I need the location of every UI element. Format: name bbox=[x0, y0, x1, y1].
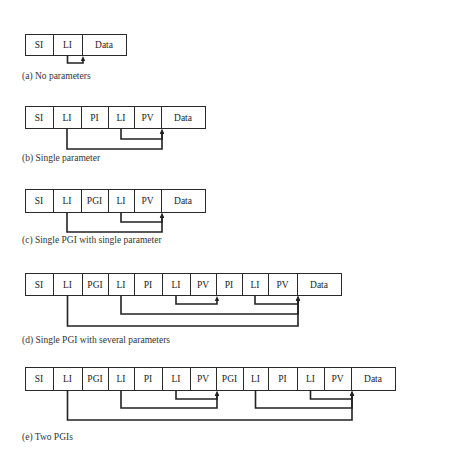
pointer-link bbox=[311, 390, 355, 399]
arrowhead-icon bbox=[160, 213, 164, 218]
panel-a: SILIData(a) No parameters bbox=[22, 35, 127, 83]
field-label: PV bbox=[197, 374, 209, 384]
panel-e: SILIPGILIPILIPVPGILIPILIPVData(e) Two PG… bbox=[22, 368, 396, 444]
field-label: PV bbox=[331, 374, 343, 384]
field-cell-data: Data bbox=[162, 107, 206, 129]
arrowhead-icon bbox=[296, 296, 300, 301]
field-cell-pi: PI bbox=[269, 368, 298, 391]
field-cell-pgi: PGI bbox=[217, 368, 244, 391]
panel-caption: (e) Two PGIs bbox=[22, 432, 73, 443]
pointer-link bbox=[121, 212, 164, 222]
field-cell-pi: PI bbox=[217, 274, 243, 296]
field-label: LI bbox=[63, 113, 72, 123]
field-label: PV bbox=[276, 280, 288, 290]
pointer-link bbox=[176, 295, 219, 304]
field-label: PV bbox=[197, 280, 209, 290]
field-cell-data: Data bbox=[162, 190, 206, 213]
field-label: LI bbox=[251, 280, 260, 290]
field-label: Data bbox=[95, 40, 114, 50]
arrowhead-icon bbox=[350, 391, 354, 396]
field-cell-li: LI bbox=[54, 107, 82, 129]
field-label: LI bbox=[306, 374, 315, 384]
field-label: PV bbox=[141, 196, 153, 206]
panel-caption: (a) No parameters bbox=[22, 71, 91, 82]
length-indicator-diagram: SILIData(a) No parametersSILIPILIPVData(… bbox=[0, 0, 457, 451]
field-cell-li: LI bbox=[163, 368, 191, 391]
field-cell-data: Data bbox=[352, 368, 396, 391]
field-label: SI bbox=[35, 196, 43, 206]
field-label: LI bbox=[117, 196, 126, 206]
field-cell-si: SI bbox=[26, 35, 54, 56]
arrowhead-icon bbox=[160, 129, 164, 134]
field-cell-pgi: PGI bbox=[83, 274, 109, 296]
pointer-link bbox=[68, 295, 301, 326]
field-label: PGI bbox=[222, 374, 237, 384]
field-cell-pv: PV bbox=[269, 274, 298, 296]
field-label: PGI bbox=[87, 280, 102, 290]
field-label: PI bbox=[278, 374, 286, 384]
field-label: Data bbox=[364, 374, 383, 384]
arrowhead-icon bbox=[81, 56, 85, 61]
field-label: PI bbox=[144, 280, 152, 290]
field-label: LI bbox=[63, 40, 72, 50]
field-cell-li: LI bbox=[244, 368, 269, 391]
field-label: LI bbox=[251, 374, 260, 384]
arrowhead-icon bbox=[215, 296, 219, 301]
field-cell-si: SI bbox=[26, 190, 54, 213]
field-cell-data: Data bbox=[83, 35, 127, 56]
field-cell-li: LI bbox=[109, 274, 135, 296]
field-label: SI bbox=[35, 113, 43, 123]
field-cell-li: LI bbox=[54, 35, 83, 56]
field-label: LI bbox=[117, 374, 126, 384]
field-row: SILIPILIPVData bbox=[26, 107, 206, 129]
field-label: LI bbox=[63, 374, 72, 384]
field-cell-pv: PV bbox=[191, 368, 217, 391]
pointer-link bbox=[121, 128, 164, 139]
field-cell-si: SI bbox=[26, 368, 54, 391]
field-cell-pv: PV bbox=[191, 274, 217, 296]
field-cell-pi: PI bbox=[82, 107, 109, 129]
pointer-link bbox=[176, 390, 219, 399]
field-cell-li: LI bbox=[163, 274, 191, 296]
field-cell-pi: PI bbox=[135, 368, 163, 391]
pointer-link bbox=[68, 55, 86, 63]
field-label: LI bbox=[172, 280, 181, 290]
panel-b: SILIPILIPVData(b) Single parameter bbox=[22, 107, 206, 165]
field-cell-li: LI bbox=[109, 368, 135, 391]
field-cell-li: LI bbox=[54, 368, 83, 391]
field-cell-si: SI bbox=[26, 274, 54, 296]
field-label: Data bbox=[310, 280, 329, 290]
field-cell-li: LI bbox=[54, 274, 83, 296]
field-cell-pi: PI bbox=[135, 274, 163, 296]
field-cell-li: LI bbox=[109, 190, 135, 213]
panel-caption: (d) Single PGI with several parameters bbox=[22, 335, 170, 346]
field-cell-si: SI bbox=[26, 107, 54, 129]
field-label: PI bbox=[225, 280, 233, 290]
field-label: SI bbox=[35, 374, 43, 384]
panel-d: SILIPGILIPILIPVPILIPVData(d) Single PGI … bbox=[22, 274, 342, 347]
field-cell-li: LI bbox=[109, 107, 135, 129]
panel-c: SILIPGILIPVData(c) Single PGI with singl… bbox=[22, 190, 206, 247]
field-label: Data bbox=[174, 113, 193, 123]
arrowhead-icon bbox=[215, 391, 219, 396]
field-cell-li: LI bbox=[298, 368, 325, 391]
field-cell-li: LI bbox=[243, 274, 269, 296]
field-cell-data: Data bbox=[298, 274, 342, 296]
field-cell-pv: PV bbox=[325, 368, 352, 391]
field-cell-pgi: PGI bbox=[83, 368, 109, 391]
field-cell-pgi: PGI bbox=[82, 190, 109, 213]
panel-caption: (b) Single parameter bbox=[22, 153, 101, 164]
pointer-link bbox=[255, 295, 300, 304]
field-label: Data bbox=[174, 196, 193, 206]
field-label: LI bbox=[63, 280, 72, 290]
field-label: SI bbox=[35, 40, 43, 50]
field-label: PV bbox=[141, 113, 153, 123]
field-label: SI bbox=[35, 280, 43, 290]
field-cell-li: LI bbox=[54, 190, 82, 213]
field-label: LI bbox=[63, 196, 72, 206]
field-cell-pv: PV bbox=[135, 107, 162, 129]
field-label: PI bbox=[144, 374, 152, 384]
field-label: LI bbox=[117, 280, 126, 290]
field-row: SILIData bbox=[26, 35, 127, 56]
panel-caption: (c) Single PGI with single parameter bbox=[22, 235, 162, 246]
